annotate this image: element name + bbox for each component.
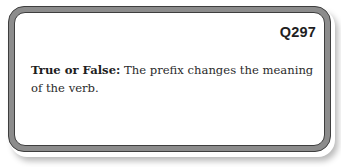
question-text: True or False: The prefix changes the me… [31,61,326,97]
question-card: Q297 True or False: The prefix changes t… [8,6,331,152]
question-type-label: True or False: [31,63,120,77]
question-card-body: Q297 True or False: The prefix changes t… [14,12,325,146]
question-number: Q297 [280,24,316,40]
